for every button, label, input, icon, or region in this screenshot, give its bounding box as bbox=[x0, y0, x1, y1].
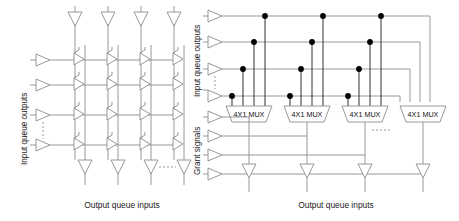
dot-m3-r2 bbox=[367, 39, 373, 45]
dot-m1-r4 bbox=[229, 93, 235, 99]
crossbar-output-queue-inputs-label: Output queue inputs bbox=[84, 200, 159, 210]
mux-grant-signals-label: Grant signals bbox=[193, 127, 202, 175]
dot-m1-r2 bbox=[251, 39, 257, 45]
dot-m3-r3 bbox=[356, 66, 362, 72]
crossbar-input-queue-outputs-label: Input queue outputs bbox=[20, 93, 29, 165]
mux-label-3: 4X1 MUX bbox=[350, 110, 381, 119]
mux-label-4: 4X1 MUX bbox=[408, 110, 439, 119]
dot-m3-r1 bbox=[378, 13, 384, 19]
dot-m2-r2 bbox=[309, 39, 315, 45]
mux-input-queue-outputs-label: Input queue outputs bbox=[193, 25, 202, 97]
dot-m1-r3 bbox=[240, 66, 246, 72]
dot-m2-r3 bbox=[298, 66, 304, 72]
dot-m3-r4 bbox=[345, 93, 351, 99]
dot-m2-r4 bbox=[287, 93, 293, 99]
switch-architecture-diagram: Input queue outputs bbox=[0, 0, 459, 221]
dot-m2-r1 bbox=[320, 13, 326, 19]
dot-m1-r1 bbox=[262, 13, 268, 19]
mux-output-queue-inputs-label: Output queue inputs bbox=[298, 200, 373, 210]
mux-label-2: 4X1 MUX bbox=[292, 110, 323, 119]
